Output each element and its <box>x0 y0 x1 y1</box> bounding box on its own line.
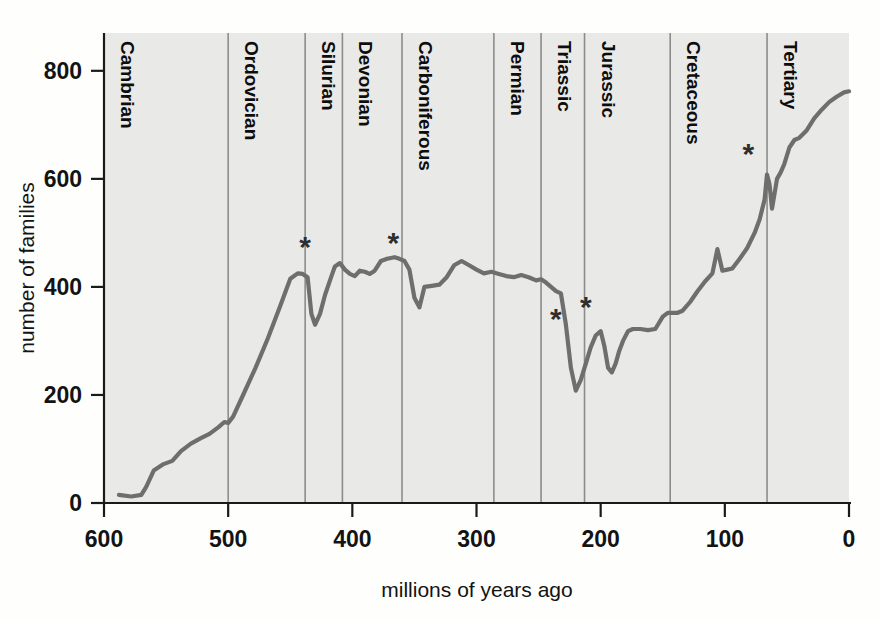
x-tick-label: 0 <box>843 526 856 552</box>
x-tick-label: 300 <box>457 526 495 552</box>
period-label-devonian: Devonian <box>355 41 376 127</box>
diversity-curve-chart: ***** CambrianOrdovicianSilurianDevonian… <box>0 0 881 620</box>
x-tick-label: 400 <box>333 526 371 552</box>
period-label-jurassic: Jurassic <box>598 41 619 119</box>
y-tick-label: 200 <box>44 382 82 408</box>
period-label-tertiary: Tertiary <box>780 41 801 110</box>
y-tick-label: 600 <box>44 166 82 192</box>
period-label-triassic: Triassic <box>554 41 575 112</box>
x-tick-label: 100 <box>706 526 744 552</box>
y-tick-label: 400 <box>44 274 82 300</box>
period-label-carboniferous: Carboniferous <box>415 41 436 171</box>
period-label-silurian: Silurian <box>318 41 339 111</box>
x-tick-label: 500 <box>209 526 247 552</box>
x-tick-label: 600 <box>85 526 123 552</box>
figure-container: ***** CambrianOrdovicianSilurianDevonian… <box>0 0 881 620</box>
extinction-asterisk-marker: * <box>550 302 562 335</box>
y-axis-title: number of families <box>15 182 38 354</box>
period-label-cretaceous: Cretaceous <box>683 41 704 145</box>
extinction-asterisk-marker: * <box>580 290 592 323</box>
period-label-ordovician: Ordovician <box>241 41 262 140</box>
extinction-asterisk-marker: * <box>387 226 399 259</box>
x-tick-label: 200 <box>581 526 619 552</box>
y-tick-label: 0 <box>69 490 82 516</box>
period-label-permian: Permian <box>507 41 528 116</box>
y-tick-label: 800 <box>44 58 82 84</box>
extinction-asterisk-marker: * <box>299 230 311 263</box>
extinction-asterisk-marker: * <box>743 137 755 170</box>
period-label-cambrian: Cambrian <box>117 41 138 129</box>
x-axis-title: millions of years ago <box>381 578 572 601</box>
